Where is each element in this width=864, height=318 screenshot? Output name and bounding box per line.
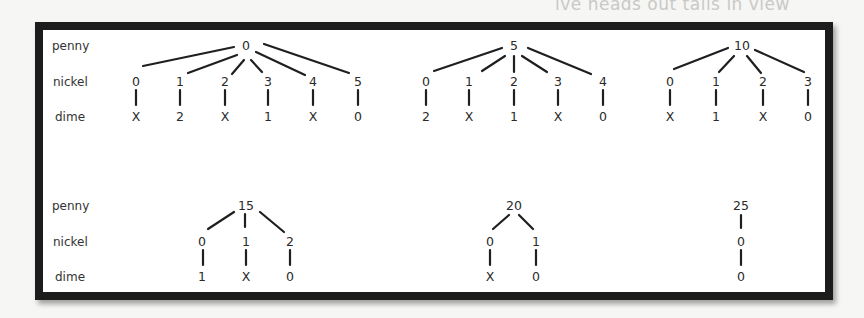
svg-text:2: 2: [422, 109, 430, 124]
svg-text:X: X: [666, 109, 675, 124]
svg-text:X: X: [759, 109, 768, 124]
svg-text:0: 0: [286, 269, 294, 284]
svg-text:1: 1: [242, 234, 250, 249]
branch: 3 X: [554, 74, 563, 124]
svg-text:3: 3: [554, 74, 562, 89]
svg-text:X: X: [309, 109, 318, 124]
svg-text:1: 1: [264, 109, 272, 124]
tree-penny-10: 10 0 X 1 1 2 X 3 0: [666, 38, 812, 124]
row-label-nickel: nickel: [53, 75, 88, 89]
tree-penny-25: 25 0 0: [733, 198, 749, 284]
svg-text:X: X: [486, 269, 495, 284]
svg-text:5: 5: [354, 74, 362, 89]
branch: 0 X: [132, 74, 141, 124]
svg-text:X: X: [554, 109, 563, 124]
branch: 0 X: [666, 74, 675, 124]
tree-penny-15: 15 0 1 1 X 2 0: [198, 198, 294, 284]
branch: 0 1: [198, 234, 206, 284]
branch: 1 X: [242, 234, 251, 284]
root-node: 5: [510, 38, 518, 53]
branch: 2 1: [510, 74, 518, 124]
svg-text:X: X: [465, 109, 474, 124]
root-node: 0: [242, 38, 250, 53]
row-label-dime: dime: [55, 270, 85, 284]
branch: 1 2: [176, 74, 184, 124]
svg-text:2: 2: [221, 74, 229, 89]
branch: 2 X: [759, 74, 768, 124]
root-node: 20: [506, 198, 522, 213]
row-labels-top: penny nickel dime: [52, 39, 89, 124]
svg-text:3: 3: [264, 74, 272, 89]
root-node: 15: [238, 198, 254, 213]
svg-text:0: 0: [198, 234, 206, 249]
svg-text:0: 0: [737, 234, 745, 249]
row-label-penny: penny: [52, 199, 89, 213]
svg-text:0: 0: [599, 109, 607, 124]
svg-text:0: 0: [737, 269, 745, 284]
svg-text:1: 1: [198, 269, 206, 284]
svg-text:4: 4: [599, 74, 607, 89]
branch: 3 1: [264, 74, 272, 124]
svg-text:1: 1: [532, 234, 540, 249]
root-node: 10: [734, 38, 750, 53]
row-labels-bottom: penny nickel dime: [52, 199, 89, 284]
row-label-penny: penny: [52, 39, 89, 53]
svg-text:0: 0: [354, 109, 362, 124]
row-label-nickel: nickel: [53, 235, 88, 249]
svg-text:4: 4: [309, 74, 317, 89]
branch: 0 X: [486, 234, 495, 284]
svg-text:2: 2: [176, 109, 184, 124]
branch: 3 0: [804, 74, 812, 124]
svg-text:2: 2: [510, 74, 518, 89]
svg-text:X: X: [221, 109, 230, 124]
tree-penny-5: 5 0 2 1 X 2 1 3 X 4 0: [422, 38, 607, 124]
root-node: 25: [733, 198, 749, 213]
tree-penny-20: 20 0 X 1 0: [486, 198, 540, 284]
branch: 1 X: [465, 74, 474, 124]
tree-penny-0: 0 0 X 1 2 2 X 3 1 4 X: [132, 38, 362, 124]
branch: 4 X: [309, 74, 318, 124]
svg-text:0: 0: [666, 74, 674, 89]
branch: 2 0: [286, 234, 294, 284]
coin-combination-tree-diagram: penny nickel dime penny nickel dime 0 0 …: [0, 0, 864, 318]
branch: 4 0: [599, 74, 607, 124]
svg-text:X: X: [242, 269, 251, 284]
svg-text:0: 0: [132, 74, 140, 89]
branch: 0 2: [422, 74, 430, 124]
svg-text:2: 2: [286, 234, 294, 249]
svg-text:2: 2: [759, 74, 767, 89]
svg-text:3: 3: [804, 74, 812, 89]
svg-text:0: 0: [804, 109, 812, 124]
svg-text:1: 1: [712, 109, 720, 124]
branch: 0 0: [737, 234, 745, 284]
svg-text:1: 1: [176, 74, 184, 89]
svg-text:1: 1: [465, 74, 473, 89]
svg-text:0: 0: [532, 269, 540, 284]
svg-text:1: 1: [712, 74, 720, 89]
branch: 1 1: [712, 74, 720, 124]
svg-text:0: 0: [486, 234, 494, 249]
branch: 2 X: [221, 74, 230, 124]
svg-text:1: 1: [510, 109, 518, 124]
branch: 5 0: [354, 74, 362, 124]
svg-text:0: 0: [422, 74, 430, 89]
branch: 1 0: [532, 234, 540, 284]
row-label-dime: dime: [55, 110, 85, 124]
svg-text:X: X: [132, 109, 141, 124]
